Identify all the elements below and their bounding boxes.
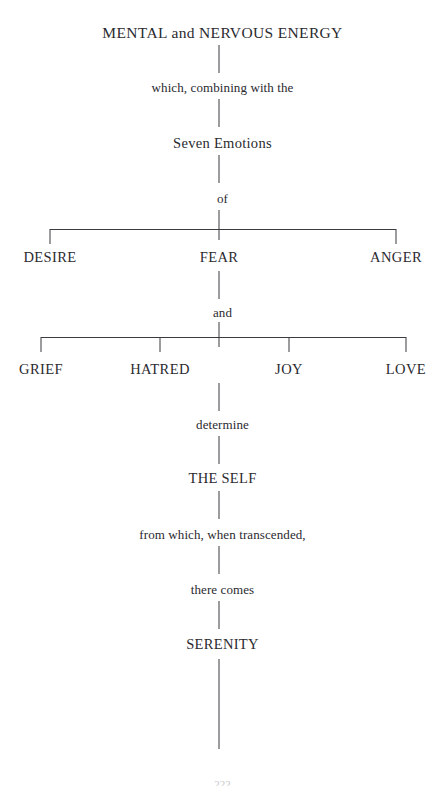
node-seven-emotions: Seven Emotions: [0, 136, 445, 151]
node-and: and: [0, 306, 445, 319]
connector-and-to-branch-b-stem: [219, 322, 220, 347]
branch-b-drop-grief: [41, 337, 42, 352]
connector-which-to-seven-emotions: [219, 99, 220, 127]
branch-a-drop-desire: [50, 229, 51, 244]
node-love: LOVE: [386, 362, 426, 377]
connector-branch-b-to-determine: [219, 383, 220, 411]
node-determine: determine: [0, 418, 445, 431]
connector-from-which-to-there-comes: [219, 546, 220, 574]
connector-seven-emotions-to-of: [219, 155, 220, 183]
diagram-page: MENTAL and NERVOUS ENERGY which, combini…: [0, 0, 445, 786]
node-the-self: THE SELF: [0, 471, 445, 486]
branch-a-horizontal-rule: [50, 229, 396, 230]
node-which-combining-with-the: which, combining with the: [0, 81, 445, 94]
node-of: of: [0, 192, 445, 205]
branch-b-drop-joy: [289, 337, 290, 352]
connector-of-to-branch-a-stem: [219, 210, 220, 240]
connector-there-comes-to-serenity: [219, 601, 220, 629]
node-fear: FEAR: [200, 250, 239, 265]
page-number: 222: [0, 779, 445, 786]
connector-root-to-which: [219, 45, 220, 73]
node-from-which-when-transcended: from which, when transcended,: [0, 528, 445, 541]
node-there-comes: there comes: [0, 583, 445, 596]
node-serenity: SERENITY: [0, 637, 445, 652]
connector-serenity-trailing: [219, 659, 220, 749]
connector-the-self-to-from-which: [219, 491, 220, 519]
node-mental-and-nervous-energy: MENTAL and NERVOUS ENERGY: [0, 25, 445, 41]
node-joy: JOY: [275, 362, 303, 377]
branch-b-drop-hatred: [160, 337, 161, 352]
node-grief: GRIEF: [19, 362, 63, 377]
branch-a-drop-anger: [396, 229, 397, 244]
node-anger: ANGER: [370, 250, 422, 265]
node-desire: DESIRE: [23, 250, 76, 265]
branch-b-drop-love: [406, 337, 407, 352]
connector-fear-to-and: [219, 271, 220, 299]
node-hatred: HATRED: [130, 362, 190, 377]
connector-determine-to-the-self: [219, 436, 220, 464]
branch-b-horizontal-rule: [41, 337, 406, 338]
